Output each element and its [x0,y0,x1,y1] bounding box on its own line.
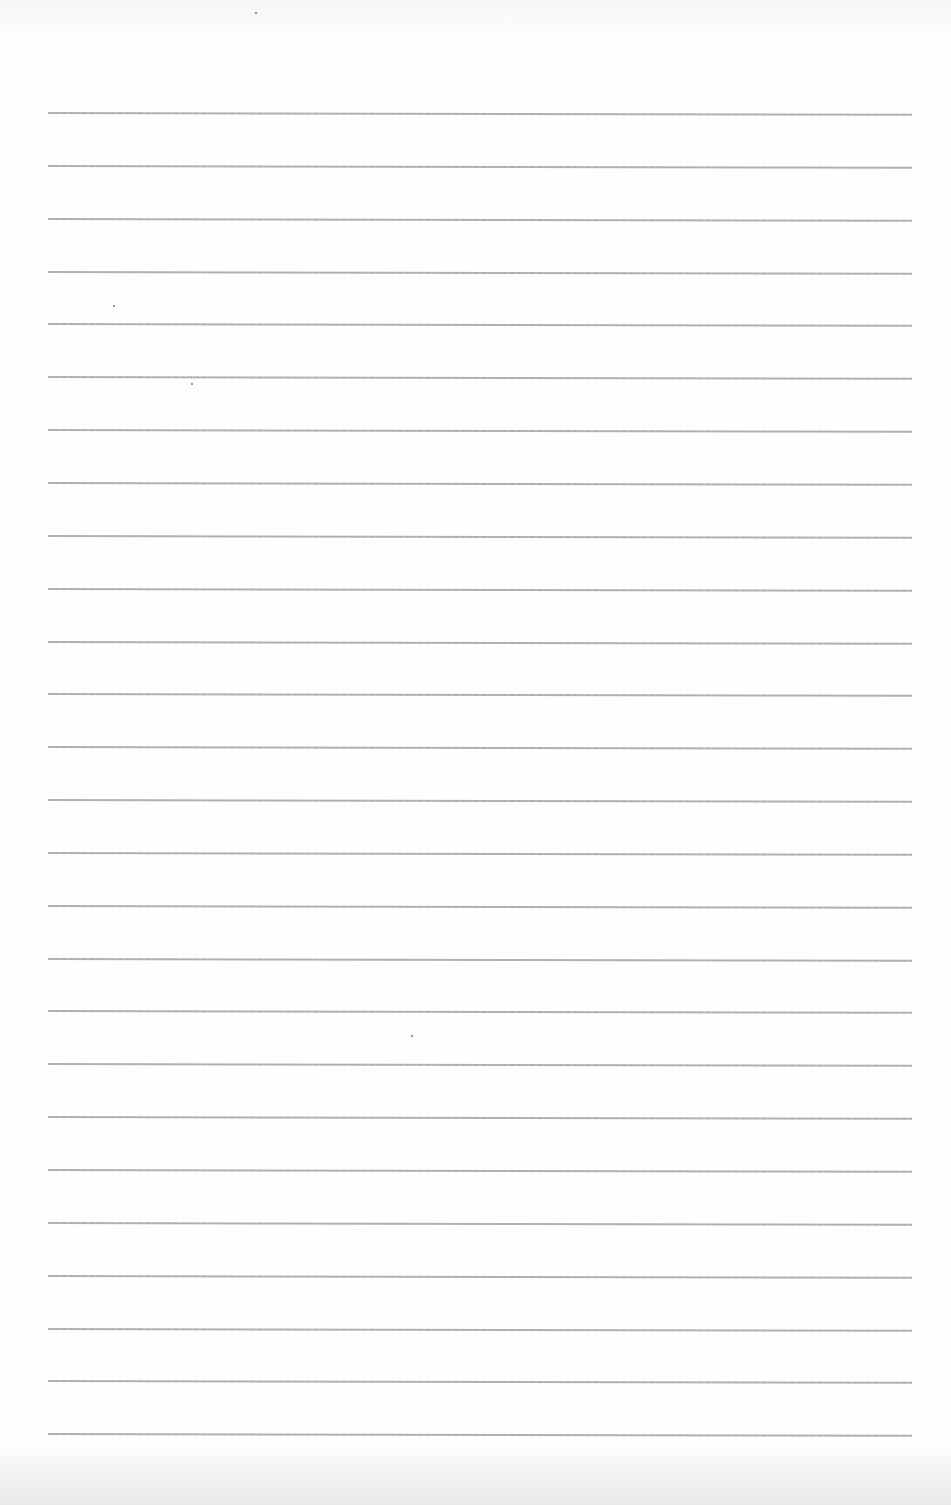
ruled-line [48,1380,912,1384]
ruled-line [48,271,912,275]
ruled-line [48,1275,912,1279]
ruled-line [48,958,912,962]
ruled-line [48,852,912,856]
ruled-line [48,1010,912,1014]
ruled-line [48,693,912,697]
ruled-line [48,588,912,592]
ruled-line [48,1063,912,1067]
scan-speck [255,12,257,14]
ruled-line [48,641,912,645]
ruled-line [48,376,912,380]
ruled-line [48,429,912,433]
ruled-line [48,535,912,539]
ruled-line [48,799,912,803]
ruled-line [48,1328,912,1332]
ruled-line [48,905,912,909]
ruled-line [48,1116,912,1120]
ruled-line [48,1222,912,1226]
ruled-line [48,746,912,750]
ruled-line [48,218,912,222]
ruled-line [48,1169,912,1173]
scan-speck [113,305,115,307]
scan-speck [191,383,193,385]
scan-speck [411,1035,413,1037]
ruled-line [48,165,912,169]
ruled-line [48,112,912,116]
lined-paper-sheet [0,0,951,1505]
ruled-line [48,482,912,486]
ruled-line [48,323,912,327]
ruled-line [48,1433,912,1437]
